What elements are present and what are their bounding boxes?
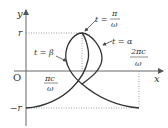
t-alpha-arrow [103, 41, 112, 45]
origin-label: O [13, 72, 21, 83]
t-alpha-label: t = α [112, 37, 133, 46]
loop-right-side [82, 33, 102, 84]
t-beta-arrow [56, 56, 66, 61]
t-pi-lhs: t = [95, 15, 107, 24]
2pic-numerator: 2πc [130, 47, 146, 56]
t-pi-numerator: π [111, 9, 118, 18]
y-axis-label: y [16, 8, 23, 19]
parametric-curve-diagram: y x O r −r πc ω 2πc ω t = π ω t = α t = … [0, 0, 168, 128]
pic-numerator: πc [44, 74, 55, 83]
x-axis-label: x [154, 73, 160, 84]
2pic-denominator: ω [135, 59, 142, 68]
t-pi-denominator: ω [111, 20, 118, 29]
t-beta-label: t = β [34, 48, 54, 57]
neg-r-tick-label: −r [10, 103, 23, 113]
pic-denominator: ω [47, 84, 54, 93]
r-tick-label: r [18, 28, 23, 38]
